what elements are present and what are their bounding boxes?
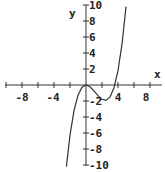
y-tick-label: 8 (89, 15, 96, 28)
y-tick-label: 6 (89, 31, 96, 44)
x-tick-label: 8 (143, 91, 150, 104)
x-tick-label: -4 (46, 91, 60, 104)
x-tick-label: 4 (115, 91, 122, 104)
x-tick-label: -8 (15, 91, 28, 104)
y-tick-label: -10 (89, 159, 109, 172)
y-tick-label: 2 (89, 63, 96, 76)
y-tick-label: -8 (89, 143, 102, 156)
y-tick-label: -4 (89, 111, 103, 124)
plot-canvas: -8 -4 4 8 10 8 6 4 2 -2 -4 -6 -8 -10 x y (0, 0, 165, 172)
y-tick-label: 10 (89, 0, 102, 12)
y-tick-label: 4 (89, 47, 96, 60)
y-axis-label: y (69, 7, 76, 20)
cubic-graph: -8 -4 4 8 10 8 6 4 2 -2 -4 -6 -8 -10 x y (0, 0, 165, 172)
y-tick-label: -6 (89, 127, 103, 140)
x-axis-label: x (154, 68, 161, 81)
